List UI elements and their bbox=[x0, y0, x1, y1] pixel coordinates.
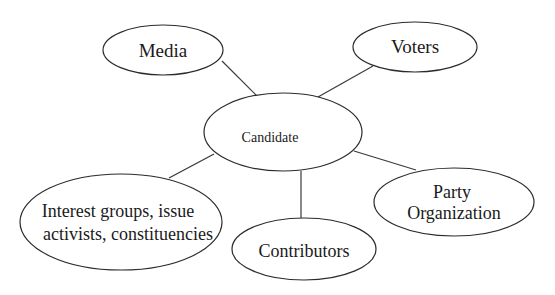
node-contributors: Contributors bbox=[232, 218, 376, 280]
edge-candidate-media bbox=[222, 61, 257, 96]
node-interest-groups-label-line1: Interest groups, issue bbox=[42, 201, 194, 221]
node-voters: Voters bbox=[353, 22, 477, 72]
node-contributors-label: Contributors bbox=[258, 241, 349, 261]
node-candidate-label: Candidate bbox=[242, 130, 299, 145]
node-candidate: Candidate bbox=[204, 93, 362, 171]
node-party-organization: Party Organization bbox=[374, 168, 534, 236]
node-party-organization-label-line1: Party bbox=[433, 182, 471, 202]
edge-candidate-interest bbox=[169, 154, 214, 178]
diagram-canvas: Media Voters Candidate Interest groups, … bbox=[0, 0, 555, 295]
node-interest-groups: Interest groups, issue activists, consti… bbox=[20, 174, 222, 270]
edge-candidate-party bbox=[354, 151, 416, 170]
node-media: Media bbox=[103, 25, 223, 75]
node-voters-label: Voters bbox=[391, 36, 439, 57]
node-party-organization-label-line2: Organization bbox=[407, 203, 501, 223]
edge-candidate-voters bbox=[318, 66, 373, 97]
node-media-label: Media bbox=[139, 40, 188, 61]
node-interest-groups-label-line2: activists, constituencies bbox=[43, 224, 213, 244]
